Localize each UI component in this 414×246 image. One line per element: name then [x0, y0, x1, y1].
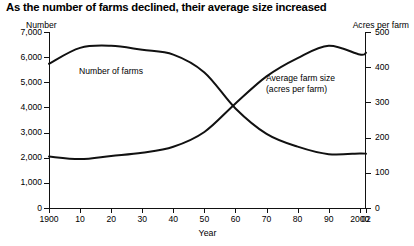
annotation-average-farm-size: Average farm size (acres per farm)	[266, 73, 335, 94]
x-tick	[49, 208, 50, 213]
chart-title: As the number of farms declined, their a…	[6, 1, 327, 13]
left-tick-label: 3,000	[20, 128, 42, 137]
x-tick	[366, 208, 367, 213]
left-tick-label: 4,000	[20, 103, 42, 112]
left-tick-label: 6,000	[20, 53, 42, 62]
right-tick-label: 200	[375, 133, 389, 142]
x-tick	[360, 208, 361, 213]
series-lines	[49, 32, 366, 208]
left-tick-label: 5,000	[20, 78, 42, 87]
x-tick	[267, 208, 268, 213]
annotation-average-farm-size-line2: (acres per farm)	[266, 84, 335, 95]
left-tick-label: 0	[37, 204, 42, 213]
chart-figure: As the number of farms declined, their a…	[0, 0, 414, 246]
x-axis-label: Year	[49, 228, 366, 238]
annotation-average-farm-size-line1: Average farm size	[266, 73, 335, 84]
left-tick-label: 1,000	[20, 178, 42, 187]
x-tick	[204, 208, 205, 213]
x-tick	[235, 208, 236, 213]
right-tick-label: 400	[375, 63, 389, 72]
x-axis-line	[49, 208, 366, 209]
plot-area: 01,0002,0003,0004,0005,0006,0007,000 010…	[49, 32, 366, 208]
left-tick-label: 7,000	[20, 28, 42, 37]
left-tick-label: 2,000	[20, 153, 42, 162]
x-tick	[329, 208, 330, 213]
x-tick	[111, 208, 112, 213]
x-tick-label: 02	[344, 215, 388, 224]
x-tick	[298, 208, 299, 213]
right-tick-label: 300	[375, 98, 389, 107]
line-number-of-farms	[49, 46, 366, 155]
right-tick-label: 100	[375, 168, 389, 177]
x-tick	[142, 208, 143, 213]
line-average-farm-size	[49, 46, 366, 159]
x-tick	[80, 208, 81, 213]
annotation-number-of-farms: Number of farms	[79, 66, 143, 77]
x-tick	[173, 208, 174, 213]
right-tick-label: 500	[375, 28, 389, 37]
right-tick-label: 0	[375, 204, 380, 213]
